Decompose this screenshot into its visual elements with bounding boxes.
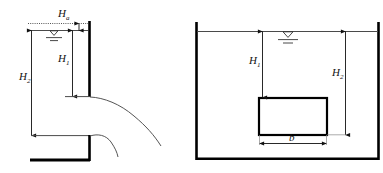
right-water-level-symbol [278, 32, 298, 43]
label-Ha-subscript: a [66, 14, 70, 22]
submerged-rectangular-body [259, 98, 327, 135]
label-H1-right-subscript: 1 [257, 61, 261, 69]
left-water-level-symbol [46, 31, 62, 41]
right-diagram-group: H 1 H 2 b [196, 22, 379, 160]
label-b: b [289, 131, 295, 143]
hydraulics-figure-svg: H a H 1 H 2 [0, 0, 383, 173]
figure-root: H a H 1 H 2 [0, 0, 383, 173]
label-H2-right-subscript: 2 [340, 73, 344, 81]
label-H2-left-subscript: 2 [27, 77, 31, 85]
lower-jet-trajectory [90, 135, 118, 157]
left-diagram-group: H a H 1 H 2 [18, 7, 161, 161]
label-H1-left-subscript: 1 [66, 59, 70, 67]
upper-jet-trajectory [90, 97, 161, 146]
